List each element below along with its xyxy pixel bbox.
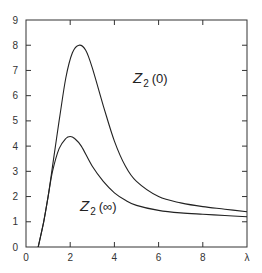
curves	[38, 45, 247, 247]
x-axis-ticks: 02468λ	[23, 20, 249, 263]
x-tick-label: λ	[245, 252, 250, 263]
y-tick-label: 7	[12, 65, 18, 76]
y-tick-label: 9	[12, 15, 18, 26]
curve-z2-inf	[38, 137, 247, 248]
y-tick-label: 5	[12, 115, 18, 126]
y-axis-ticks: 0123456789	[12, 15, 247, 253]
y-tick-label: 1	[12, 216, 18, 227]
curve-z2-0	[38, 45, 247, 247]
y-tick-label: 0	[12, 242, 18, 253]
y-tick-label: 2	[12, 191, 18, 202]
y-tick-label: 4	[12, 141, 18, 152]
x-tick-label: 4	[112, 252, 118, 263]
series-label-z2-0: Z2(0)	[132, 69, 168, 89]
x-tick-label: 2	[67, 252, 73, 263]
plot-frame	[26, 20, 247, 247]
x-tick-label: 6	[156, 252, 162, 263]
series-label-z2-inf: Z2(∞)	[79, 197, 117, 217]
x-tick-label: 0	[23, 252, 29, 263]
y-tick-label: 8	[12, 40, 18, 51]
x-tick-label: 8	[200, 252, 206, 263]
line-chart: 02468λ 0123456789 Z2(0) Z2(∞)	[0, 0, 262, 273]
y-tick-label: 3	[12, 166, 18, 177]
y-tick-label: 6	[12, 90, 18, 101]
